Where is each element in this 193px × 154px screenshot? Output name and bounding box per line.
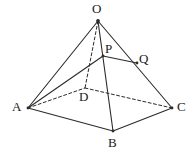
vertex-point-a: [27, 107, 30, 110]
edge-D-C: [85, 88, 172, 108]
vertex-point-b: [112, 130, 115, 133]
vertex-label-q: Q: [139, 52, 148, 65]
vertex-label-o: O: [92, 2, 101, 15]
vertex-label-c: C: [177, 100, 186, 113]
vertex-label-b: B: [108, 136, 117, 149]
edge-A-B: [28, 108, 113, 131]
pyramid-drawing: [0, 0, 193, 154]
segment-A-P: [28, 56, 103, 108]
visible-edges-group: [28, 21, 172, 131]
vertex-point-o: [96, 19, 100, 23]
edge-O-D: [85, 21, 98, 88]
vertex-label-a: A: [12, 100, 21, 113]
vertex-point-q: [136, 62, 139, 65]
segment-P-Q: [103, 56, 137, 63]
edge-B-C: [113, 108, 172, 131]
vertex-point-c: [171, 107, 174, 110]
geometry-figure: O P Q A D C B: [0, 0, 193, 154]
edge-O-C: [98, 21, 172, 108]
edge-O-B: [98, 21, 113, 131]
vertex-point-p: [102, 55, 105, 58]
vertex-label-d: D: [79, 90, 88, 103]
vertex-label-p: P: [105, 42, 112, 55]
